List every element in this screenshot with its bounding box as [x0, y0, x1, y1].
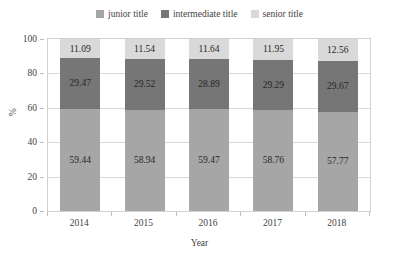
- y-tick-label: 40: [28, 137, 38, 147]
- y-tick-label: 0: [32, 206, 37, 216]
- x-axis-ticks: 20142015201620172018: [47, 217, 371, 231]
- y-tickmark: [40, 211, 44, 212]
- legend-label-intermediate-title: intermediate title: [173, 9, 238, 19]
- bar-segment-junior[interactable]: 57.77: [318, 112, 358, 211]
- bar-value-label: 29.67: [327, 81, 348, 91]
- bar-value-label: 29.29: [263, 80, 284, 90]
- y-tick-label: 100: [23, 34, 37, 44]
- bar-segment-senior[interactable]: 11.64: [189, 39, 229, 59]
- x-tickmark: [305, 212, 306, 216]
- bar-value-label: 59.47: [198, 155, 219, 165]
- bar-value-label: 11.54: [134, 44, 155, 54]
- y-axis-ticks: 020406080100: [0, 38, 44, 212]
- x-axis-title: Year: [0, 238, 399, 249]
- chart-legend: junior title intermediate title senior t…: [0, 9, 399, 19]
- y-axis-title: %: [8, 108, 18, 116]
- plot-area: 11.0929.4759.4411.5429.5258.9411.6428.89…: [47, 38, 371, 212]
- legend-item-intermediate-title[interactable]: intermediate title: [161, 9, 238, 19]
- x-tickmark: [240, 212, 241, 216]
- bar-value-label: 58.76: [263, 155, 284, 165]
- x-axis-tickmarks: [47, 212, 371, 216]
- bar-value-label: 11.64: [198, 44, 219, 54]
- bar-value-label: 29.47: [70, 78, 91, 88]
- bar-segment-intermediate[interactable]: 29.29: [253, 60, 293, 110]
- legend-item-senior-title[interactable]: senior title: [251, 9, 303, 19]
- x-tickmark: [176, 212, 177, 216]
- bar-value-label: 57.77: [327, 156, 348, 166]
- y-tickmark: [40, 142, 44, 143]
- y-tickmark: [40, 73, 44, 74]
- x-tickmark: [111, 212, 112, 216]
- x-tick-label: 2017: [240, 217, 304, 229]
- y-tickmark: [40, 108, 44, 109]
- bar-value-label: 11.95: [263, 44, 284, 54]
- bar-segment-junior[interactable]: 58.76: [253, 110, 293, 211]
- legend-swatch-senior-title: [251, 10, 259, 18]
- legend-swatch-junior-title: [96, 10, 104, 18]
- legend-item-junior-title[interactable]: junior title: [96, 9, 148, 19]
- bar-group[interactable]: 11.0929.4759.44: [60, 39, 100, 211]
- legend-label-senior-title: senior title: [263, 9, 303, 19]
- bars-layer: 11.0929.4759.4411.5429.5258.9411.6428.89…: [48, 39, 370, 211]
- legend-swatch-intermediate-title: [161, 10, 169, 18]
- bar-segment-intermediate[interactable]: 28.89: [189, 59, 229, 109]
- bar-segment-senior[interactable]: 11.09: [60, 39, 100, 58]
- stacked-bar-chart: junior title intermediate title senior t…: [0, 0, 399, 266]
- bar-value-label: 12.56: [327, 45, 348, 55]
- bar-segment-intermediate[interactable]: 29.47: [60, 58, 100, 109]
- bar-group[interactable]: 11.9529.2958.76: [253, 39, 293, 211]
- bar-value-label: 58.94: [134, 155, 155, 165]
- bar-segment-intermediate[interactable]: 29.52: [125, 59, 165, 110]
- bar-value-label: 11.09: [70, 44, 91, 54]
- bar-value-label: 29.52: [134, 79, 155, 89]
- x-tick-label: 2015: [111, 217, 175, 229]
- bar-group[interactable]: 11.6428.8959.47: [189, 39, 229, 211]
- bar-segment-senior[interactable]: 12.56: [318, 39, 358, 61]
- bar-value-label: 28.89: [198, 79, 219, 89]
- x-tickmark: [47, 212, 48, 216]
- x-tick-label: 2014: [47, 217, 111, 229]
- bar-segment-junior[interactable]: 58.94: [125, 110, 165, 211]
- legend-label-junior-title: junior title: [108, 9, 148, 19]
- y-tickmark: [40, 39, 44, 40]
- y-tick-label: 20: [28, 172, 38, 182]
- x-tickmark: [369, 212, 370, 216]
- y-tickmark: [40, 177, 44, 178]
- bar-segment-junior[interactable]: 59.47: [189, 109, 229, 211]
- bar-segment-senior[interactable]: 11.95: [253, 39, 293, 60]
- bar-segment-junior[interactable]: 59.44: [60, 109, 100, 211]
- bar-group[interactable]: 12.5629.6757.77: [318, 39, 358, 211]
- x-tick-label: 2016: [176, 217, 240, 229]
- bar-value-label: 59.44: [70, 155, 91, 165]
- bar-group[interactable]: 11.5429.5258.94: [125, 39, 165, 211]
- y-tick-label: 60: [28, 103, 38, 113]
- x-tick-label: 2018: [305, 217, 369, 229]
- bar-segment-intermediate[interactable]: 29.67: [318, 61, 358, 112]
- y-tick-label: 80: [28, 68, 38, 78]
- bar-segment-senior[interactable]: 11.54: [125, 39, 165, 59]
